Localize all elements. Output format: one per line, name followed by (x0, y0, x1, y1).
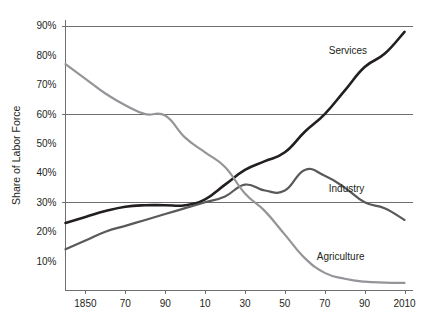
y-axis-title: Share of Labor Force (10, 106, 22, 205)
series-line-group (66, 32, 405, 283)
x-tick-label: 2010 (393, 298, 416, 309)
y-tick-label-group: 10%20%30%40%50%60%70%80%90% (36, 20, 56, 266)
x-tick-label: 1850 (74, 298, 97, 309)
x-tick-label: 90 (359, 298, 371, 309)
x-tick-label: 10 (200, 298, 212, 309)
x-tick-label: 30 (239, 298, 251, 309)
x-tick-label: 90 (160, 298, 172, 309)
labor-force-chart: 10%20%30%40%50%60%70%80%90% 185070901030… (0, 0, 436, 328)
chart-canvas: 10%20%30%40%50%60%70%80%90% 185070901030… (0, 0, 436, 328)
y-tick-label: 90% (36, 20, 56, 31)
y-tick-label: 40% (36, 167, 56, 178)
series-label-industry: Industry (329, 183, 365, 194)
y-tick-label: 80% (36, 50, 56, 61)
y-tick-label: 20% (36, 226, 56, 237)
series-label-group: ServicesIndustryAgriculture (317, 45, 367, 262)
x-tick-label: 50 (279, 298, 291, 309)
x-tick-label: 70 (120, 298, 132, 309)
x-tick-label-group: 1850709010305070902010 (74, 298, 416, 309)
series-label-services: Services (329, 45, 367, 56)
y-tick-label: 60% (36, 109, 56, 120)
y-tick-label: 70% (36, 79, 56, 90)
y-tick-label: 10% (36, 256, 56, 267)
y-tick-label: 50% (36, 138, 56, 149)
y-tick-label: 30% (36, 197, 56, 208)
series-label-agriculture: Agriculture (317, 251, 365, 262)
y-axis-title-group: Share of Labor Force (10, 106, 22, 205)
x-tick-label: 70 (319, 298, 331, 309)
